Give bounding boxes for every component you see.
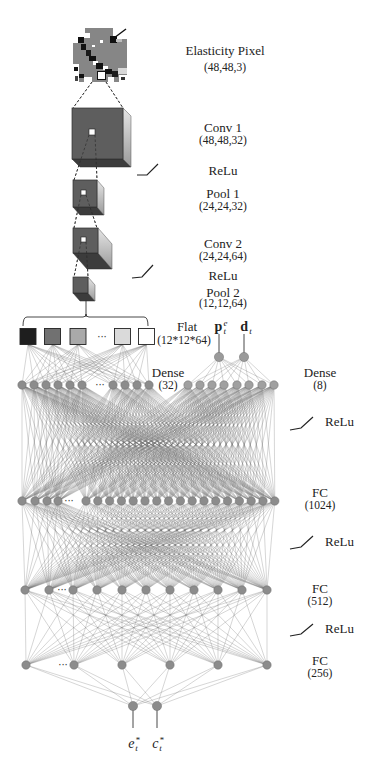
edge-fc512-fc256 bbox=[74, 590, 97, 665]
conv1-cube-bottom-face bbox=[72, 159, 131, 167]
image-pixel-block bbox=[73, 37, 78, 43]
input-d-base: d bbox=[240, 320, 248, 334]
edge-fc1024-fc512 bbox=[22, 501, 25, 590]
edge-flat-dense32 bbox=[28, 345, 125, 386]
flatten-unit-square bbox=[139, 329, 155, 345]
output-c-t-star: c * t bbox=[152, 735, 164, 752]
image-pixel-block bbox=[112, 71, 118, 77]
fc256-ellipsis: ··· bbox=[58, 659, 68, 670]
pool1-kernel-window bbox=[81, 190, 86, 195]
dense32-neuron bbox=[30, 381, 38, 389]
fc1024-neuron bbox=[82, 497, 90, 505]
relu2-label: ReLu bbox=[209, 269, 238, 282]
conv1-cube-front-face bbox=[72, 108, 123, 159]
fc512-size: (512) bbox=[308, 596, 333, 608]
pool1-shape: (24,24,32) bbox=[199, 201, 247, 213]
fc1024-neuron bbox=[94, 497, 102, 505]
fc256-neuron bbox=[214, 661, 222, 669]
relu-activation-icon bbox=[290, 624, 313, 636]
relu5-label: ReLu bbox=[325, 622, 354, 635]
edge-flat-dense32 bbox=[28, 345, 34, 386]
edge-inputs-dense8 bbox=[188, 357, 219, 385]
fc1024-neuron bbox=[164, 497, 172, 505]
image-pixel-block bbox=[75, 76, 78, 81]
edge-fc256-outputs bbox=[74, 665, 133, 706]
output-e-sub: t bbox=[135, 744, 140, 752]
flatten-unit-square bbox=[20, 329, 36, 345]
fc1024-neuron bbox=[117, 497, 125, 505]
input-p-e-t: p e t bbox=[215, 318, 228, 335]
edge-dense8-fc1024 bbox=[263, 385, 274, 501]
edge-fc256-outputs bbox=[157, 665, 218, 706]
output-c-sub: t bbox=[159, 744, 164, 752]
fc256-neuron bbox=[118, 661, 126, 669]
fc256-size: (256) bbox=[308, 668, 333, 680]
edge-flat-dense32 bbox=[22, 345, 28, 386]
feature-map-cubes bbox=[72, 82, 131, 301]
fc1024-neuron bbox=[129, 497, 137, 505]
conv1-cube-side-face bbox=[123, 108, 131, 167]
fc512-label: FC bbox=[312, 582, 328, 595]
fc256-neuron bbox=[166, 661, 174, 669]
fc1024-neuron bbox=[18, 497, 26, 505]
flat-shape: (12*12*64) bbox=[157, 335, 211, 347]
edge-fc256-outputs bbox=[157, 665, 267, 706]
fc1024-neuron bbox=[43, 497, 51, 505]
pool2-shape: (12,12,64) bbox=[199, 298, 247, 310]
image-pixel-block bbox=[74, 67, 78, 71]
input-d-sub: t bbox=[249, 327, 252, 335]
fc1024-label: FC bbox=[312, 486, 328, 499]
fc1024-neuron bbox=[105, 497, 113, 505]
conv2-kernel-window bbox=[81, 237, 86, 242]
fc256-neuron bbox=[263, 661, 271, 669]
dense8-label: Dense bbox=[304, 366, 337, 379]
relu3-label: ReLu bbox=[325, 415, 354, 428]
edge-fc512-fc256 bbox=[74, 590, 242, 665]
edge-fc512-fc256 bbox=[26, 590, 73, 665]
dense8-neuron bbox=[196, 381, 204, 389]
dashed-link-overlay bbox=[73, 82, 92, 108]
fc512-neuron bbox=[190, 586, 198, 594]
conv2-label: Conv 2 bbox=[204, 237, 242, 250]
fc1024-neuron bbox=[223, 497, 231, 505]
pool1-label: Pool 1 bbox=[206, 187, 240, 200]
connection-edges bbox=[22, 345, 275, 707]
image-pixel-block bbox=[81, 44, 86, 50]
dense8-neuron bbox=[270, 381, 278, 389]
output-e-base: e bbox=[128, 737, 134, 751]
edge-fc256-outputs bbox=[157, 665, 170, 706]
dense8-neuron bbox=[184, 381, 192, 389]
dense32-neuron bbox=[78, 381, 86, 389]
network-architecture-diagram: ··············· Elasticity Pixel (48,48,… bbox=[0, 0, 373, 776]
edge-fc1024-fc512 bbox=[267, 501, 275, 590]
flatten-unit-square bbox=[70, 329, 86, 345]
fc1024-neuron bbox=[153, 497, 161, 505]
fc512-neuron bbox=[263, 586, 271, 594]
dense8-neuron bbox=[258, 381, 266, 389]
edge-fc512-fc256 bbox=[122, 590, 242, 665]
dense8-neuron bbox=[220, 381, 228, 389]
relu-activation-icon bbox=[137, 164, 158, 175]
image-pixel-block bbox=[100, 40, 103, 43]
edge-fc256-outputs bbox=[133, 665, 218, 706]
fc1024-neuron bbox=[212, 497, 220, 505]
fc512-neuron bbox=[214, 586, 222, 594]
edge-fc1024-fc512 bbox=[242, 501, 275, 590]
edge-flat-dense32 bbox=[147, 345, 150, 386]
dense32-ellipsis: ··· bbox=[95, 379, 105, 390]
fc1024-neuron bbox=[31, 497, 39, 505]
fc256-neuron bbox=[22, 661, 30, 669]
fc256-neuron bbox=[70, 661, 78, 669]
fc1024-neuron bbox=[200, 497, 208, 505]
fc512-ellipsis: ··· bbox=[57, 584, 67, 595]
image-pixel-block bbox=[116, 39, 122, 42]
elasticity-pixel-shape: (48,48,3) bbox=[204, 62, 246, 74]
relu-activation-icon bbox=[132, 265, 153, 278]
inputs-neuron bbox=[214, 352, 223, 361]
fc512-neuron bbox=[238, 586, 246, 594]
pool2-cube-front-face bbox=[73, 277, 88, 293]
edge-fc512-fc256 bbox=[26, 590, 49, 665]
fc1024-neuron bbox=[271, 497, 279, 505]
fc1024-neuron bbox=[247, 497, 255, 505]
image-pixel-block bbox=[98, 72, 105, 79]
